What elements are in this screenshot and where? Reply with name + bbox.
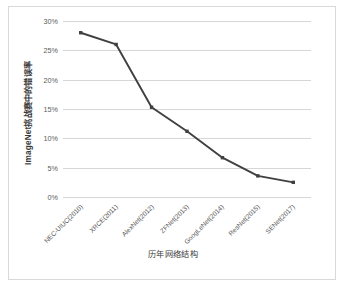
chart-frame: ImageNet挑战赛中的错误率 0%5%10%15%20%25%30% NEC… bbox=[8, 6, 336, 280]
y-axis-title: ImageNet挑战赛中的错误率 bbox=[21, 33, 33, 193]
plot-area: 0%5%10%15%20%25%30% NEC-UIUC(2010)XRCE(2… bbox=[63, 21, 311, 197]
series-line bbox=[81, 33, 294, 183]
chart-canvas: ImageNet挑战赛中的错误率 0%5%10%15%20%25%30% NEC… bbox=[9, 7, 337, 281]
data-series-line bbox=[63, 21, 311, 197]
y-axis-tick-label: 5% bbox=[48, 163, 58, 172]
gridline bbox=[63, 197, 311, 198]
y-axis-tick-label: 30% bbox=[44, 17, 58, 26]
x-axis-tick-label: SENet(2017) bbox=[264, 203, 296, 235]
x-axis-tick-label: AlexNet(2012) bbox=[120, 203, 155, 238]
x-axis-tick-label: NEC-UIUC(2010) bbox=[42, 203, 83, 244]
y-axis-tick-label: 20% bbox=[44, 75, 58, 84]
y-axis-tick-label: 10% bbox=[44, 134, 58, 143]
data-point-marker bbox=[221, 156, 224, 159]
data-point-marker bbox=[185, 130, 188, 133]
x-axis-title: 历年网络结构 bbox=[9, 247, 337, 259]
y-axis-tick-label: 25% bbox=[44, 46, 58, 55]
data-point-marker bbox=[114, 43, 117, 46]
x-axis-tick-label: GoogLeNet(2014) bbox=[183, 203, 225, 245]
data-point-marker bbox=[292, 181, 295, 184]
data-point-marker bbox=[79, 31, 82, 34]
x-axis-tick-label: ZFNet(2013) bbox=[159, 203, 190, 234]
data-point-marker bbox=[256, 174, 259, 177]
x-axis-tick-label: ResNet(2015) bbox=[227, 203, 261, 237]
y-axis-tick-label: 15% bbox=[44, 105, 58, 114]
data-point-marker bbox=[150, 106, 153, 109]
x-axis-tick-label: XRCE(2011) bbox=[88, 203, 119, 234]
y-axis-tick-label: 0% bbox=[48, 193, 58, 202]
